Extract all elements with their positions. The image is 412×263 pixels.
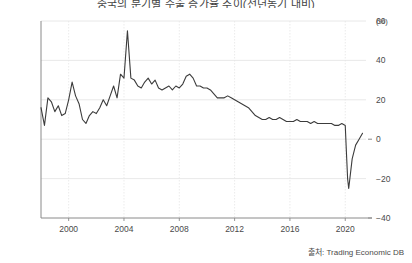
y-tick-label: 40 bbox=[376, 55, 386, 65]
chart-plot-area: −40−200204060 200020042008201220162020 (… bbox=[0, 0, 412, 263]
x-axis-tick-labels: 200020042008201220162020 bbox=[59, 218, 355, 234]
y-tick-label: −20 bbox=[376, 174, 391, 184]
x-tick-label: 2016 bbox=[280, 224, 299, 234]
chart-figure: 중국의 분기별 수출 증가율 추이(전년동기 대비) −40−200204060… bbox=[0, 0, 412, 263]
x-tick-label: 2000 bbox=[59, 224, 78, 234]
source-attribution: 출처: Trading Economic DB bbox=[308, 246, 404, 257]
y-tick-label: 0 bbox=[376, 134, 381, 144]
y-axis-tick-labels: −40−200204060 bbox=[368, 16, 391, 223]
x-tick-label: 2020 bbox=[336, 224, 355, 234]
y-axis-unit-label: (%) bbox=[376, 17, 388, 26]
axis-lines bbox=[41, 21, 372, 218]
x-tick-label: 2008 bbox=[170, 224, 189, 234]
x-tick-label: 2004 bbox=[115, 224, 134, 234]
x-tick-label: 2012 bbox=[225, 224, 244, 234]
gridlines bbox=[41, 21, 366, 218]
data-series-layer bbox=[41, 31, 363, 189]
y-tick-label: 20 bbox=[376, 95, 386, 105]
y-tick-label: −40 bbox=[376, 213, 391, 223]
